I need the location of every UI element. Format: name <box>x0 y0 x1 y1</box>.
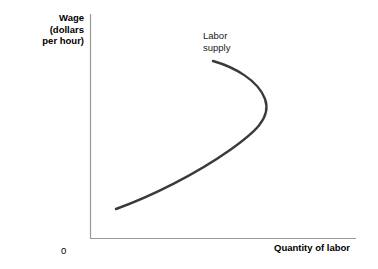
labor-supply-curve <box>116 61 267 209</box>
labor-supply-figure: Wage(dollarsper hour) Quantity of labor … <box>0 0 378 269</box>
y-axis-title: Wage(dollarsper hour) <box>6 12 84 47</box>
curve-label-line-2: supply <box>203 42 230 53</box>
y-axis-title-line-1: Wage <box>59 12 84 23</box>
x-axis-title: Quantity of labor <box>274 242 350 254</box>
y-axis-title-line-2: (dollars <box>50 24 84 35</box>
y-axis-title-line-3: per hour) <box>42 35 84 46</box>
curve-label-line-1: Labor <box>203 30 227 41</box>
labor-supply-curve-label: Laborsupply <box>203 30 230 54</box>
origin-label: 0 <box>61 245 66 256</box>
